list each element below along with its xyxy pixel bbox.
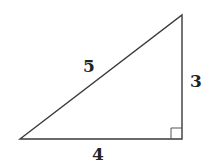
vertical-leg-label: 3 [190, 73, 202, 90]
horizontal-leg-label: 4 [92, 146, 104, 163]
hypotenuse-label: 5 [83, 58, 95, 75]
triangle-outline [20, 15, 182, 139]
right-triangle-diagram: 5 3 4 [0, 0, 211, 165]
right-angle-marker [171, 128, 182, 139]
triangle-figure [0, 0, 211, 165]
